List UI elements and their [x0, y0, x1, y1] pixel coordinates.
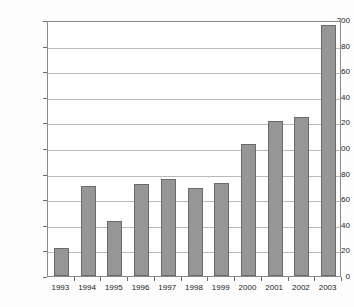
- bar: [134, 184, 149, 276]
- x-axis-tick-mark: [127, 277, 128, 281]
- x-axis-tick-mark: [74, 277, 75, 281]
- y-axis-title: Annual Recoveries (metric tonnes yr-1): [14, 0, 28, 28]
- bar: [188, 188, 203, 276]
- bar: [214, 183, 229, 276]
- x-axis-tick-mark: [314, 277, 315, 281]
- bar: [81, 186, 96, 276]
- x-axis-tick-mark: [154, 277, 155, 281]
- x-axis-tick-mark: [341, 277, 342, 281]
- x-axis-tick-mark: [288, 277, 289, 281]
- gridline: [48, 73, 340, 74]
- bar: [161, 179, 176, 276]
- y-axis-tick-mark: [43, 277, 47, 278]
- bar: [54, 248, 69, 276]
- bar: [321, 25, 336, 276]
- bar: [107, 221, 122, 276]
- bar: [268, 121, 283, 276]
- x-axis-tick-mark: [234, 277, 235, 281]
- x-axis-tick-mark: [207, 277, 208, 281]
- x-axis-tick-mark: [100, 277, 101, 281]
- plot-area: [47, 21, 341, 277]
- gridline: [48, 99, 340, 100]
- x-axis-tick-label: 2003: [312, 283, 344, 292]
- bar: [241, 144, 256, 276]
- x-axis-tick-mark: [181, 277, 182, 281]
- bar-chart-figure: Annual Recoveries (metric tonnes yr-1) 0…: [0, 0, 354, 307]
- gridline: [48, 48, 340, 49]
- x-axis-tick-mark: [261, 277, 262, 281]
- bar: [294, 117, 309, 276]
